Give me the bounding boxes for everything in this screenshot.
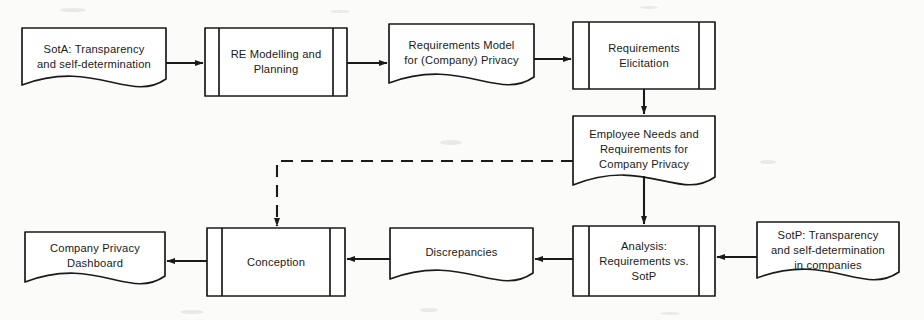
node-employee-needs-shape[interactable] [573,116,715,185]
node-sotp-shape[interactable] [757,222,899,280]
scan-speck [420,308,438,312]
node-discrepancies-shape[interactable] [390,228,533,281]
flowchart-svg [0,0,924,320]
scan-speck [640,6,658,9]
node-conception-shape[interactable] [207,228,345,296]
scan-speck [330,10,350,13]
node-sota-shape[interactable] [22,28,166,87]
scan-speck [180,310,204,314]
node-analysis-shape[interactable] [573,226,715,296]
scan-speck [760,160,776,164]
node-dashboard-shape[interactable] [25,232,165,284]
scan-speck [440,140,462,145]
edge-employee-needs-to-conception [277,161,573,226]
node-requirements-elicitation-shape[interactable] [573,22,715,89]
node-requirements-model-shape[interactable] [389,24,534,85]
node-re-modelling-shape[interactable] [205,28,347,96]
scan-speck [660,312,680,315]
scan-speck [60,8,86,12]
flowchart-canvas: SotA: Transparency and self-determinatio… [0,0,924,320]
